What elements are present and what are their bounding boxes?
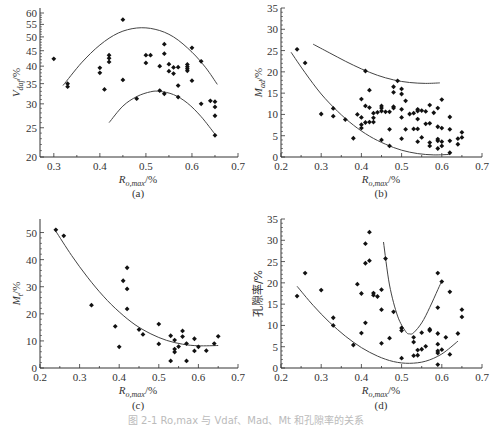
data-point bbox=[460, 315, 465, 320]
x-tick-label: 0.7 bbox=[475, 371, 489, 383]
data-point bbox=[363, 320, 368, 325]
data-point bbox=[427, 144, 432, 149]
data-point bbox=[363, 69, 368, 74]
data-point bbox=[435, 146, 440, 151]
data-point bbox=[213, 99, 218, 104]
y-tick-label: 25 bbox=[267, 256, 279, 268]
data-point bbox=[176, 344, 181, 349]
data-point bbox=[447, 127, 452, 132]
data-point bbox=[435, 362, 440, 367]
data-point bbox=[359, 115, 364, 120]
x-tick-label: 0.6 bbox=[185, 160, 199, 172]
data-point bbox=[303, 61, 308, 66]
data-point bbox=[172, 350, 177, 355]
data-point bbox=[120, 17, 125, 22]
data-point bbox=[192, 336, 197, 341]
x-tick-label: 0.4 bbox=[355, 371, 369, 383]
data-point bbox=[168, 333, 173, 338]
x-tick-label: 0.4 bbox=[112, 371, 126, 383]
y-tick-label: 25 bbox=[267, 45, 279, 57]
panel-label: (a) bbox=[132, 187, 145, 200]
data-point bbox=[216, 334, 221, 339]
x-tick-label: 0.3 bbox=[314, 160, 328, 172]
data-point bbox=[419, 330, 424, 335]
y-axis-title: Mt/% bbox=[10, 282, 25, 307]
data-point bbox=[387, 109, 392, 114]
x-tick-label: 0.6 bbox=[192, 371, 206, 383]
data-point bbox=[439, 126, 444, 131]
panel-label: (d) bbox=[375, 399, 388, 412]
data-point bbox=[399, 86, 404, 91]
data-point bbox=[51, 56, 56, 61]
fit-curve bbox=[109, 91, 215, 134]
data-point bbox=[379, 109, 384, 114]
data-point bbox=[447, 352, 452, 357]
data-point bbox=[427, 103, 432, 108]
data-point bbox=[125, 265, 130, 270]
y-tick-label: 20 bbox=[267, 277, 279, 289]
x-tick-label: 0.5 bbox=[152, 371, 166, 383]
data-point bbox=[162, 42, 167, 47]
panel-label: (c) bbox=[132, 399, 145, 412]
data-point bbox=[355, 112, 360, 117]
data-point bbox=[141, 332, 146, 337]
x-tick-label: 0.7 bbox=[231, 160, 245, 172]
data-point bbox=[295, 47, 300, 52]
data-point bbox=[391, 84, 396, 89]
data-point bbox=[171, 65, 176, 70]
data-point bbox=[391, 90, 396, 95]
data-point bbox=[395, 78, 400, 83]
x-axis-title: Ro,max/% bbox=[118, 384, 157, 399]
x-tick-label: 0.5 bbox=[395, 160, 409, 172]
x-tick-label: 0.6 bbox=[435, 371, 449, 383]
x-tick-label: 0.3 bbox=[47, 160, 61, 172]
data-point bbox=[460, 135, 465, 140]
data-point bbox=[419, 108, 424, 113]
data-point bbox=[455, 136, 460, 141]
data-point bbox=[148, 53, 153, 58]
data-point bbox=[180, 328, 185, 333]
data-point bbox=[176, 83, 181, 88]
data-point bbox=[192, 349, 197, 354]
data-point bbox=[144, 53, 149, 58]
data-point bbox=[367, 258, 372, 263]
data-point bbox=[176, 95, 181, 100]
data-point bbox=[439, 97, 444, 102]
data-point bbox=[61, 233, 66, 238]
data-point bbox=[375, 110, 380, 115]
data-point bbox=[176, 65, 181, 70]
data-point bbox=[431, 110, 436, 115]
data-point bbox=[399, 115, 404, 120]
data-point bbox=[162, 51, 167, 56]
y-tick-label: 0 bbox=[273, 151, 279, 163]
y-tick-label: 10 bbox=[267, 319, 279, 331]
data-point bbox=[415, 117, 420, 122]
data-point bbox=[415, 353, 420, 358]
data-point bbox=[460, 307, 465, 312]
y-tick-label: 30 bbox=[26, 98, 38, 110]
chart-panel-d: 0.20.30.40.50.60.705101520253035Ro,max/%… bbox=[251, 213, 489, 412]
data-point bbox=[102, 87, 107, 92]
x-tick-label: 0.6 bbox=[435, 160, 449, 172]
data-point bbox=[303, 271, 308, 276]
data-point bbox=[435, 106, 440, 111]
y-tick-label: 35 bbox=[267, 2, 279, 14]
y-tick-label: 45 bbox=[26, 45, 38, 57]
data-point bbox=[359, 331, 364, 336]
data-point bbox=[53, 227, 58, 232]
data-point bbox=[379, 341, 384, 346]
data-point bbox=[65, 84, 70, 89]
data-point bbox=[447, 115, 452, 120]
data-point bbox=[144, 61, 149, 66]
data-point bbox=[331, 106, 336, 111]
data-point bbox=[196, 344, 201, 349]
data-point bbox=[423, 109, 428, 114]
data-point bbox=[435, 331, 440, 336]
data-point bbox=[157, 64, 162, 69]
y-tick-label: 30 bbox=[26, 281, 38, 293]
data-point bbox=[156, 341, 161, 346]
data-point bbox=[371, 120, 376, 125]
data-point bbox=[331, 315, 336, 320]
data-point bbox=[351, 136, 356, 141]
data-point bbox=[113, 324, 118, 329]
